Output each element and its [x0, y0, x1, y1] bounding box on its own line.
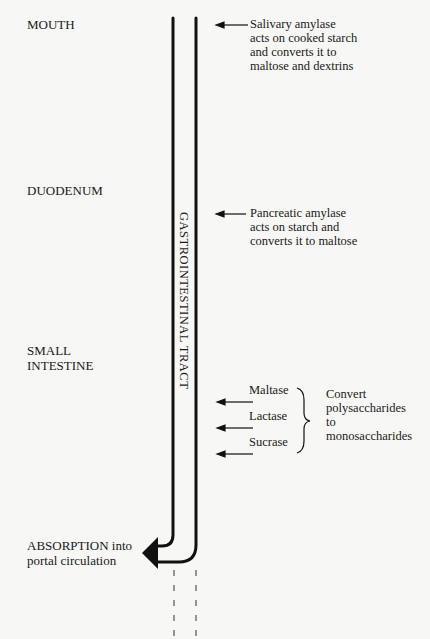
- brace: [297, 388, 310, 453]
- region-duodenum: DUODENUM: [27, 183, 103, 198]
- salivary-amylase-note: Salivary amylase acts on cooked starch a…: [250, 17, 357, 73]
- dashed-continuation: [174, 570, 196, 639]
- enzyme-maltase: Maltase: [249, 383, 289, 397]
- region-mouth: MOUTH: [27, 17, 75, 32]
- region-absorption: ABSORPTION into portal circulation: [27, 538, 132, 568]
- enzyme-effect-note: Convert polysaccharides to monosaccharid…: [326, 387, 412, 443]
- absorption-arrowhead: [142, 537, 158, 569]
- pancreatic-amylase-note: Pancreatic amylase acts on starch and co…: [250, 206, 357, 248]
- tract-label: GASTROINTESTINAL TRACT: [176, 212, 191, 389]
- enzyme-arrows: [216, 22, 253, 457]
- enzyme-sucrase: Sucrase: [249, 435, 288, 449]
- region-small-intestine: SMALL INTESTINE: [27, 343, 93, 373]
- enzyme-lactase: Lactase: [249, 409, 287, 423]
